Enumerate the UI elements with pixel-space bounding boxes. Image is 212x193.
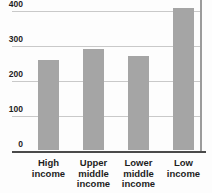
bar-lower-middle-income [128,56,149,150]
y-tick-label: 400 [0,0,23,9]
x-category-label: High income [27,158,71,179]
y-tick-label: 100 [0,104,23,114]
bar-chart: 0100200300400High incomeUpper middle inc… [0,0,212,193]
y-tick-label: 0 [0,139,23,149]
y-tick-label: 300 [0,34,23,44]
y-tick-label: 200 [0,69,23,79]
x-category-label: Lower middle income [117,158,161,190]
bar-low-income [173,8,194,151]
right-spine [200,0,202,153]
bar-upper-middle-income [83,49,104,150]
x-axis-line [12,151,206,154]
x-category-label: Upper middle income [72,158,116,190]
x-category-label: Low income [162,158,206,179]
bar-high-income [38,60,59,151]
